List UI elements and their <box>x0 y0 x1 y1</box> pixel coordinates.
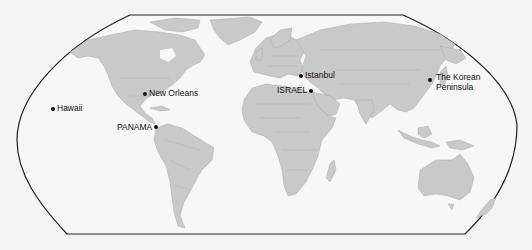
label-israel: ISRAEL <box>277 86 307 95</box>
marker-israel <box>309 89 313 93</box>
marker-istanbul <box>299 74 303 78</box>
label-istanbul: Istanbul <box>305 71 335 80</box>
label-new-orleans: New Orleans <box>149 89 198 98</box>
marker-new-orleans <box>143 92 147 96</box>
marker-hawaii <box>51 107 55 111</box>
label-hawaii: Hawaii <box>57 104 83 113</box>
label-korean-peninsula-line2: Peninsula <box>436 83 473 92</box>
label-panama: PANAMA <box>117 123 152 132</box>
world-map: Hawaii New Orleans PANAMA Istanbul ISRAE… <box>0 0 532 250</box>
marker-korean-peninsula <box>428 78 432 82</box>
world-map-graphic <box>0 0 532 250</box>
marker-panama <box>154 125 158 129</box>
label-korean-peninsula-line1: The Korean <box>436 73 480 82</box>
